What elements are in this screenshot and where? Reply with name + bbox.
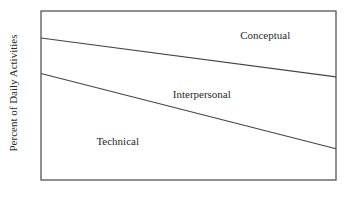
y-axis-label: Percent of Daily Activities [7, 35, 19, 152]
region-label-interpersonal: Interpersonal [173, 88, 231, 100]
boundary-line-interpersonal-conceptual [41, 38, 336, 77]
region-label-conceptual: Conceptual [240, 29, 290, 41]
boundary-line-technical-interpersonal [41, 74, 336, 149]
region-label-technical: Technical [96, 135, 139, 147]
chart: TechnicalInterpersonalConceptual Percent… [0, 0, 349, 197]
